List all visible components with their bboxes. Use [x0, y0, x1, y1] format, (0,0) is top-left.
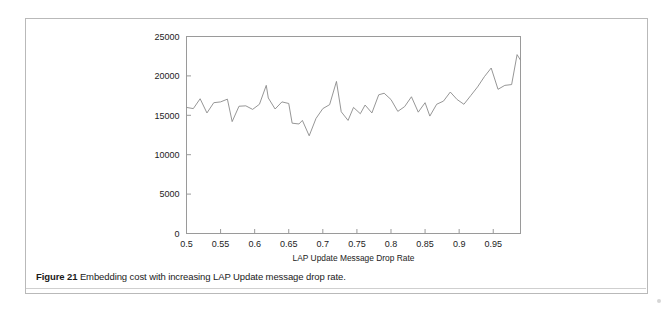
- figure-caption-text: Embedding cost with increasing LAP Updat…: [77, 271, 345, 282]
- page-speck-mark: [657, 299, 661, 303]
- figure-caption: Figure 21 Embedding cost with increasing…: [36, 271, 596, 282]
- figure-frame: [25, 18, 648, 294]
- figure-page: 05000100001500020000250000.50.550.60.650…: [0, 0, 670, 313]
- figure-number: Figure 21: [36, 271, 77, 282]
- caption-divider: [26, 288, 646, 289]
